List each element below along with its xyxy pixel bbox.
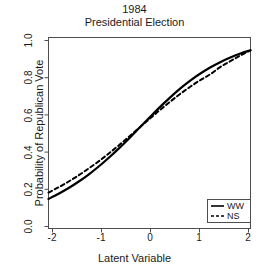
x-axis-title: Latent Variable bbox=[0, 252, 269, 264]
y-tick-label-5: 1.0 bbox=[23, 30, 34, 52]
y-tick-label-1: 0.2 bbox=[23, 179, 34, 201]
legend-label-ww: WW bbox=[227, 201, 244, 211]
chart-figure: 1984 Presidential Election bbox=[0, 0, 269, 274]
x-tick-label-4: 2 bbox=[238, 232, 258, 243]
x-tick-label-0: -2 bbox=[42, 232, 62, 243]
x-tick-label-3: 1 bbox=[189, 232, 209, 243]
legend-label-ns: NS bbox=[227, 211, 240, 221]
y-tick-label-2: 0.4 bbox=[23, 142, 34, 164]
y-axis-title: Probability of Republican Vote bbox=[33, 38, 45, 228]
x-tick-label-1: -1 bbox=[91, 232, 111, 243]
y-tick-label-3: 0.6 bbox=[23, 105, 34, 127]
y-tick-label-0: 0.0 bbox=[23, 216, 34, 238]
y-tick-label-4: 0.8 bbox=[23, 67, 34, 89]
x-tick-label-2: 0 bbox=[140, 232, 160, 243]
